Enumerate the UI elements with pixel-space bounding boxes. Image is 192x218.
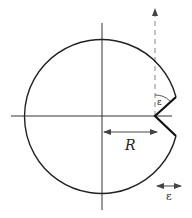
width-epsilon-label: ε bbox=[166, 191, 172, 202]
radius-label: R bbox=[125, 138, 136, 152]
keyhole-contour-diagram: R ε ε bbox=[0, 0, 192, 218]
angle-epsilon-label: ε bbox=[157, 98, 162, 107]
diagram-canvas bbox=[0, 0, 192, 218]
